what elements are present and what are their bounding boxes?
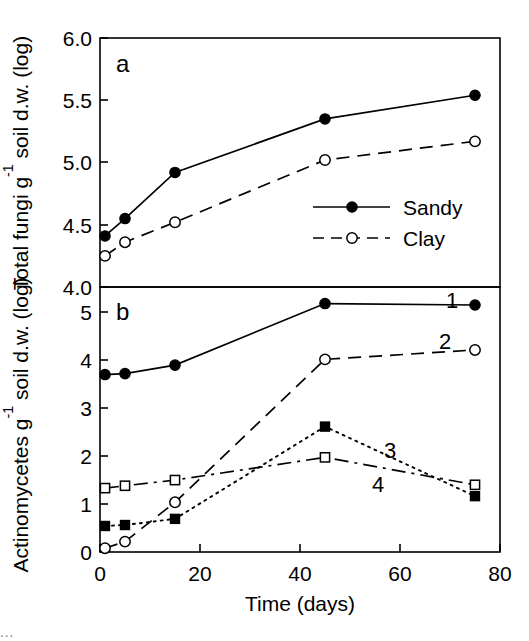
x-tick-40: 40 (288, 562, 311, 585)
open-circle-marker (120, 237, 130, 247)
y-tick-a-4-0: 4.0 (63, 276, 92, 299)
filled-square-marker (120, 520, 129, 529)
filled-square-marker (100, 521, 109, 530)
open-circle-marker (170, 497, 180, 507)
filled-square-marker (170, 514, 179, 523)
filled-circle-marker (120, 213, 130, 223)
legend-entry-sandy[interactable]: Sandy (313, 196, 463, 219)
filled-circle-marker (170, 167, 180, 177)
x-tick-20: 20 (188, 562, 211, 585)
series-line (105, 304, 475, 375)
x-tick-80: 80 (488, 562, 511, 585)
open-circle-marker (100, 543, 110, 553)
y-axis-title-top-rest: soil d.w. (log) (9, 36, 32, 164)
series-label-1: 1 (446, 288, 458, 313)
y-tick-b-4: 4 (80, 349, 92, 372)
open-circle-marker (170, 217, 180, 227)
open-circle-marker (100, 251, 110, 261)
panel-a-letter: a (116, 50, 130, 77)
chart-svg: a b 6.0 5.5 5.0 4.5 4.0 5 (0, 0, 529, 641)
filled-square-marker (320, 422, 329, 431)
filled-circle-marker (470, 90, 480, 100)
open-square-marker (100, 484, 109, 493)
legend: Sandy Clay (313, 196, 463, 250)
panel-b: b (100, 287, 500, 552)
series-line (105, 457, 475, 488)
open-circle-marker (320, 155, 330, 165)
y-axis-title-top-main: Total fungi g (9, 177, 32, 290)
y-tick-b-2: 2 (80, 445, 92, 468)
y-tick-a-5-5: 5.5 (63, 89, 92, 112)
open-circle-marker (470, 345, 480, 355)
x-axis-ticks: 0 20 40 60 80 (94, 544, 512, 585)
filled-circle-marker (320, 114, 330, 124)
series-line (105, 427, 475, 526)
panel-b-frame (100, 287, 500, 552)
filled-circle-marker (100, 369, 110, 379)
open-square-marker (120, 481, 129, 490)
open-square-marker (320, 453, 329, 462)
open-square-marker (170, 475, 179, 484)
open-square-marker (470, 480, 479, 489)
legend-entry-clay[interactable]: Clay (313, 227, 446, 250)
open-circle-icon (347, 233, 357, 243)
series-4 (100, 453, 479, 493)
filled-circle-marker (320, 298, 330, 308)
y-axis-title-top: Total fungi g-1 soil d.w. (log) (0, 36, 32, 290)
series-label-2: 2 (439, 329, 451, 354)
filled-square-marker (470, 492, 479, 501)
panel-b-letter: b (116, 298, 129, 325)
y-axis-title-bottom-main: Actinomycetes g (9, 419, 32, 573)
filled-circle-marker (100, 231, 110, 241)
x-tick-0: 0 (94, 562, 106, 585)
legend-label-clay: Clay (403, 227, 446, 250)
y-tick-a-4-5: 4.5 (63, 214, 92, 237)
series-3 (100, 422, 479, 531)
y-tick-b-5: 5 (80, 301, 92, 324)
y-axis-title-bottom-sup: -1 (0, 406, 16, 419)
legend-label-sandy: Sandy (403, 196, 463, 219)
panel-b-series-group (100, 298, 480, 553)
caption-fragment: ... (0, 624, 529, 641)
filled-circle-marker (120, 368, 130, 378)
filled-circle-marker (170, 360, 180, 370)
series-label-3: 3 (384, 438, 396, 463)
y-tick-a-6-0: 6.0 (63, 27, 92, 50)
series-1 (100, 298, 480, 379)
y-tick-b-1: 1 (80, 493, 92, 516)
y-tick-a-5-0: 5.0 (63, 151, 92, 174)
x-tick-60: 60 (388, 562, 411, 585)
y-axis-title-bottom-rest: soil d.w. (log) (9, 277, 32, 405)
figure-container: a b 6.0 5.5 5.0 4.5 4.0 5 (0, 0, 529, 641)
open-circle-marker (470, 136, 480, 146)
y-axis-title-bottom: Actinomycetes g-1 soil d.w. (log) (0, 277, 32, 572)
filled-circle-marker (470, 300, 480, 310)
open-circle-marker (320, 354, 330, 364)
svg-text:Actinomycetes g-1 soil d.w. (l: Actinomycetes g-1 soil d.w. (log) (0, 277, 32, 572)
series-label-4: 4 (372, 472, 384, 497)
y-axis-title-top-sup: -1 (0, 164, 16, 177)
open-circle-marker (120, 536, 130, 546)
x-axis-title: Time (days) (245, 592, 355, 615)
svg-text:Total fungi g-1 soil d.w. (log: Total fungi g-1 soil d.w. (log) (0, 36, 32, 290)
y-tick-b-3: 3 (80, 397, 92, 420)
filled-circle-icon (347, 202, 357, 212)
y-tick-b-0: 0 (80, 541, 92, 564)
